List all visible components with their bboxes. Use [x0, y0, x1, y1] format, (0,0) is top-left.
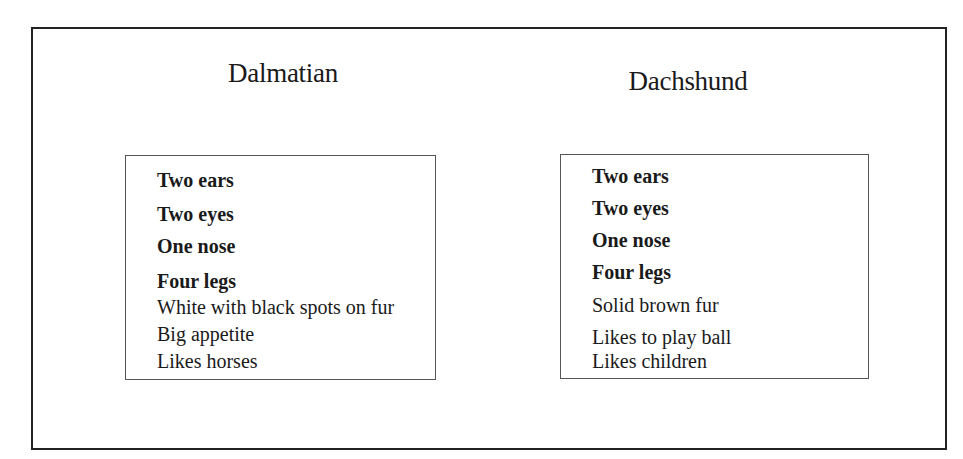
dachshund-title: Dachshund: [629, 68, 748, 95]
dalmatian-traits-box: Two ears Two eyes One nose Four legs Whi…: [125, 155, 436, 380]
trait-item: Likes children: [592, 351, 707, 371]
trait-item: One nose: [157, 236, 235, 256]
trait-item: Solid brown fur: [592, 295, 719, 315]
trait-item: Two ears: [592, 166, 669, 186]
trait-item: Likes to play ball: [592, 327, 731, 347]
trait-item: Two eyes: [592, 198, 669, 218]
trait-item: Four legs: [592, 262, 671, 282]
trait-item: Two ears: [157, 170, 234, 190]
trait-item: Likes horses: [157, 351, 258, 371]
trait-item: Two eyes: [157, 204, 234, 224]
dalmatian-title: Dalmatian: [228, 60, 338, 87]
trait-item: Big appetite: [157, 324, 254, 344]
trait-item: White with black spots on fur: [157, 297, 394, 317]
trait-item: Four legs: [157, 271, 236, 291]
trait-item: One nose: [592, 230, 670, 250]
dachshund-traits-box: Two ears Two eyes One nose Four legs Sol…: [560, 154, 869, 379]
